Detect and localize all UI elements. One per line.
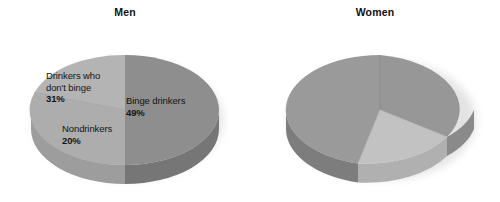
slice-name: Nondrinkers: [62, 123, 112, 135]
slice-label-men-nonbinge: Drinkers who don't binge 31%: [46, 70, 100, 105]
slice-value: 31%: [46, 93, 100, 105]
pie-chart-women: Women Binge drinkers 41% Drinkers who do…: [250, 0, 500, 202]
slice-name-line2: don't binge: [46, 82, 100, 94]
slice-label-men-binge: Binge drinkers 49%: [126, 95, 185, 118]
pie-chart-men: Men Drinkers who don't binge 31% Nondrin…: [0, 0, 250, 202]
slice-value: 49%: [126, 107, 185, 119]
slice-value: 20%: [62, 135, 112, 147]
slice-name: Binge drinkers: [126, 95, 185, 107]
pie-graphic-men: [0, 0, 250, 202]
slice-name-line1: Drinkers who: [46, 70, 100, 82]
slice-label-men-nondrink: Nondrinkers 20%: [62, 123, 112, 146]
pie-graphic-women: [250, 0, 500, 202]
